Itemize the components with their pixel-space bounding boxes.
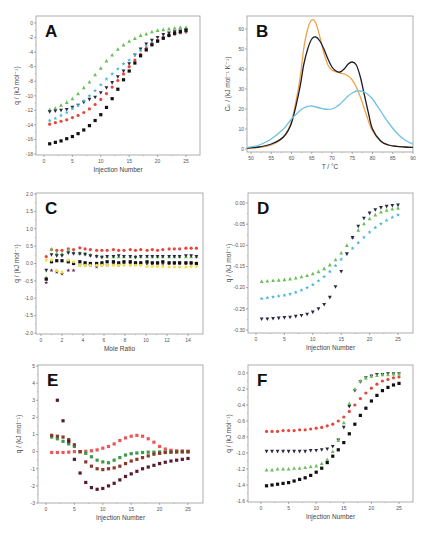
data-point <box>186 450 189 453</box>
data-point <box>71 116 74 119</box>
data-point <box>276 430 279 433</box>
chart-panel-B: 0102030405060505560657075808590T / °CCₚ … <box>224 16 416 170</box>
data-point <box>116 88 119 91</box>
x-tick-label: 10 <box>313 505 319 511</box>
data-point <box>56 435 59 438</box>
data-point <box>178 261 181 264</box>
data-point <box>129 260 132 263</box>
y-tick-label: 0.0 <box>26 260 33 266</box>
data-point <box>386 378 389 381</box>
data-point <box>270 483 273 486</box>
data-point <box>359 397 362 400</box>
data-point <box>304 428 307 431</box>
data-point <box>129 264 132 267</box>
data-point <box>78 450 81 453</box>
x-tick-label: 25 <box>395 336 401 342</box>
y-tick-label: 0.00 <box>235 200 245 206</box>
x-tick-label: 15 <box>126 158 132 164</box>
panel-letter: B <box>256 22 268 41</box>
data-point <box>106 260 109 263</box>
x-tick-label: 5 <box>287 505 290 511</box>
data-point <box>178 265 181 268</box>
y-tick-label: 4 <box>32 380 35 386</box>
data-point <box>76 132 79 135</box>
data-point <box>173 32 176 35</box>
data-point <box>55 269 58 272</box>
data-point <box>326 461 329 464</box>
data-point <box>105 92 108 95</box>
x-tick-label: 80 <box>370 155 376 161</box>
data-point <box>107 467 110 470</box>
x-tick-label: 15 <box>341 505 347 511</box>
data-point <box>128 65 131 68</box>
data-point <box>124 462 127 465</box>
x-axis-label: Injection Number <box>306 344 356 352</box>
data-point <box>287 481 290 484</box>
figure-canvas: 0-2-4-6-8-10-12-14-16-180510152025Inject… <box>0 0 426 533</box>
y-tick-label: -16 <box>26 136 33 142</box>
data-point <box>101 447 104 450</box>
y-tick-label: -0.5 <box>24 278 33 284</box>
data-point <box>186 457 189 460</box>
x-tick-label: 25 <box>396 505 402 511</box>
data-point <box>190 247 193 250</box>
x-tick-label: 20 <box>157 506 163 512</box>
plot-frame <box>38 365 203 503</box>
data-point <box>117 249 120 252</box>
y-tick-label: -0.30 <box>234 327 246 333</box>
data-point <box>106 249 109 252</box>
data-point <box>67 440 70 443</box>
x-axis-label: Injection Number <box>96 514 146 522</box>
data-point <box>134 249 137 252</box>
data-point <box>130 435 133 438</box>
data-point <box>164 461 167 464</box>
data-point <box>59 139 62 142</box>
x-axis-label: Mole Ratio <box>104 345 135 352</box>
data-point <box>169 451 172 454</box>
data-point <box>61 419 64 422</box>
y-tick-label: -6 <box>29 63 34 69</box>
data-point <box>164 451 167 454</box>
y-tick-label: 0.0 <box>238 370 245 376</box>
data-point <box>55 259 58 262</box>
data-point <box>113 442 116 445</box>
data-point <box>135 434 138 437</box>
data-point <box>48 142 51 145</box>
data-point <box>122 264 125 267</box>
data-point <box>100 249 103 252</box>
data-point <box>281 482 284 485</box>
x-tick-label: 60 <box>289 155 295 161</box>
data-point <box>168 265 171 268</box>
data-point <box>78 246 81 249</box>
y-tick-label: 0 <box>241 146 244 152</box>
data-point <box>133 61 136 64</box>
data-point <box>179 30 182 33</box>
data-point <box>156 249 159 252</box>
y-tick-label: -2 <box>31 483 36 489</box>
data-point <box>381 389 384 392</box>
x-tick-label: 20 <box>367 336 373 342</box>
y-axis-label: Cₚ / (kJ mol⁻¹ K⁻¹) <box>224 57 232 112</box>
data-point <box>60 271 63 274</box>
data-point <box>320 426 323 429</box>
data-point <box>270 430 273 433</box>
y-tick-label: 2 <box>32 414 35 420</box>
data-point <box>164 447 167 450</box>
data-point <box>117 264 120 267</box>
x-tick-label: 12 <box>164 337 170 343</box>
data-point <box>331 455 334 458</box>
y-axis-label: q / (kJ mol⁻¹) <box>225 244 233 282</box>
data-point <box>94 119 97 122</box>
y-tick-label: -12 <box>26 107 33 113</box>
y-axis-label: q / (kJ mol⁻¹) <box>13 244 21 282</box>
y-tick-label: 5 <box>32 363 35 369</box>
data-point <box>162 37 165 40</box>
data-point <box>173 261 176 264</box>
plot-frame <box>248 193 413 333</box>
y-tick-label: -0.2 <box>236 386 245 392</box>
data-point <box>54 141 57 144</box>
y-tick-label: -1.5 <box>24 312 33 318</box>
x-axis-label: Injection Number <box>306 513 356 521</box>
y-tick-label: -2.0 <box>24 330 33 336</box>
data-point <box>118 456 121 459</box>
